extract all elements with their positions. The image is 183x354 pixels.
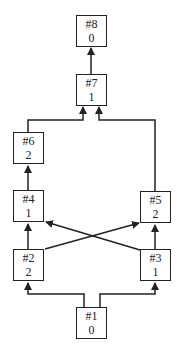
edge-1-to-3 [100, 283, 155, 307]
node-2-label: #2 [23, 251, 35, 265]
node-8-value: 0 [89, 31, 95, 45]
node-5-value: 2 [153, 207, 159, 221]
node-6-value: 2 [26, 148, 32, 162]
node-5: #5 2 [140, 191, 171, 223]
edge-5-to-7 [99, 107, 155, 191]
node-6-label: #6 [23, 134, 35, 148]
node-8: #8 0 [76, 15, 107, 47]
node-2: #2 2 [13, 249, 44, 281]
node-7: #7 1 [76, 74, 107, 106]
node-3: #3 1 [140, 249, 171, 281]
node-1-value: 0 [89, 323, 95, 337]
node-6: #6 2 [13, 132, 44, 164]
node-7-value: 1 [89, 90, 95, 104]
node-1: #1 0 [76, 307, 107, 339]
node-2-value: 2 [26, 265, 32, 279]
edge-6-to-7 [28, 107, 83, 132]
node-7-label: #7 [86, 76, 98, 90]
edge-1-to-2 [28, 283, 84, 307]
node-8-label: #8 [86, 17, 98, 31]
node-3-label: #3 [150, 251, 162, 265]
node-1-label: #1 [86, 309, 98, 323]
node-3-value: 1 [153, 265, 159, 279]
node-4-label: #4 [23, 192, 35, 206]
edges-layer [0, 0, 183, 354]
node-4: #4 1 [13, 190, 44, 222]
node-4-value: 1 [26, 206, 32, 220]
node-5-label: #5 [150, 193, 162, 207]
